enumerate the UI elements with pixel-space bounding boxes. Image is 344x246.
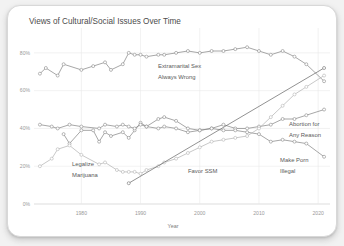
y-tick-label: 60% [20,87,31,93]
series-label-0: Extramarital Sex [158,63,201,69]
series-label-4: Favor SSM [188,168,218,174]
y-tick-label: 80% [20,50,31,56]
x-axis-ticks: 19801990200020102020 [76,210,324,216]
x-axis-title: Year [168,223,179,229]
series-label-2-line2: Illegal [280,168,295,174]
series-label-2: Make Porn [280,157,308,163]
x-tick-label: 2020 [312,210,323,216]
y-tick-label: 40% [20,125,31,131]
y-axis-ticks: 0%20%40%60%80% [20,50,31,207]
chart-title: Views of Cultural/Social Issues Over Tim… [29,17,181,26]
series-annotations: Extramarital SexAlways WrongAbortion for… [72,63,321,178]
y-tick-label: 0% [23,201,31,207]
series-label-1: Abortion for [289,121,319,127]
series-label-3: Legalize [72,161,95,167]
chart-card: Views of Cultural/Social Issues Over Tim… [7,5,337,237]
screenshot-root: Views of Cultural/Social Issues Over Tim… [0,0,344,246]
x-tick-label: 1980 [76,210,87,216]
series-label-1-line2: Any Reason [289,132,321,138]
x-tick-label: 2010 [253,210,264,216]
x-tick-label: 2000 [194,210,205,216]
series-label-3-line2: Marijuana [72,172,99,178]
y-tick-label: 20% [20,163,31,169]
x-tick-label: 1990 [135,210,146,216]
chart-canvas: Views of Cultural/Social Issues Over Tim… [8,6,337,237]
series-label-0-line2: Always Wrong [158,74,196,80]
